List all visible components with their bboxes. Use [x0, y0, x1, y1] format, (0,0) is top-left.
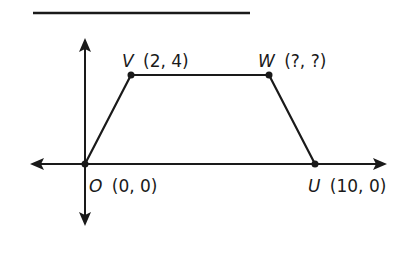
label-u-coords: (10, 0) [330, 176, 387, 196]
label-v-coords: (2, 4) [143, 51, 189, 71]
vertex-o-dot [82, 161, 89, 168]
label-v-letter: V [122, 51, 135, 71]
label-o-coords: (0, 0) [112, 176, 158, 196]
label-w-coords: (?, ?) [284, 51, 326, 71]
label-u: U (10, 0) [308, 176, 386, 196]
label-v: V (2, 4) [122, 51, 189, 71]
label-o-letter: O [89, 176, 102, 196]
vertex-u-dot [312, 161, 319, 168]
label-u-letter: U [308, 176, 321, 196]
y-axis [79, 38, 91, 226]
trapezoid-diagram: V (2, 4) W (?, ?) O (0, 0) U (10, 0) [0, 0, 406, 257]
trapezoid-outline [85, 75, 315, 164]
label-o: O (0, 0) [89, 176, 158, 196]
vertex-v-dot [128, 72, 135, 79]
label-w: W (?, ?) [258, 51, 326, 71]
label-w-letter: W [258, 51, 276, 71]
vertex-w-dot [266, 72, 273, 79]
